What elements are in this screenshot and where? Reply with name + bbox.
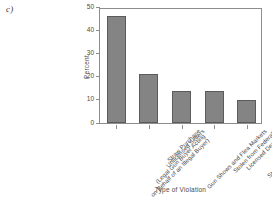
bar-stolen-federally-licensed-dealers [205, 91, 224, 123]
y-tick-mark [96, 76, 100, 77]
y-tick-label: 40 [87, 26, 94, 33]
bar-gun-shows-flea-markets [172, 91, 191, 123]
x-tick-5 [247, 125, 248, 129]
bar-straw-purchase [107, 16, 126, 123]
y-tick-label: 10 [87, 95, 94, 102]
y-tick-mark [96, 53, 100, 54]
x-axis-title: Type of Violation [99, 186, 262, 193]
x-tick-2 [149, 125, 150, 129]
x-tick-3 [182, 125, 183, 129]
y-tick-mark [96, 123, 100, 124]
y-tick-mark [96, 30, 100, 31]
x-tick-4 [214, 125, 215, 129]
bar-chart-figure: Percent 0 10 20 30 40 50 [0, 0, 272, 200]
bar-stolen-from-residences [237, 100, 256, 123]
y-tick-mark [96, 7, 100, 8]
x-tick-1 [116, 125, 117, 129]
y-tick-label: 50 [87, 3, 94, 10]
plot-area: Percent 0 10 20 30 40 50 [99, 8, 262, 124]
y-tick-label: 30 [87, 49, 94, 56]
y-tick-label: 0 [90, 119, 94, 126]
y-tick-label: 20 [87, 72, 94, 79]
x-category-line: (Legal Gun Buyer Acting [145, 133, 206, 194]
y-tick-mark [96, 99, 100, 100]
bar-unlicensed-sellers [139, 74, 158, 123]
